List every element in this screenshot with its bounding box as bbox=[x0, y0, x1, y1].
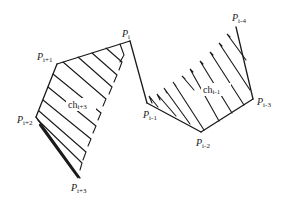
hatch-line bbox=[182, 76, 194, 90]
vertex-label-p-i-plus-2: Pi+2 bbox=[16, 114, 33, 127]
hatch-line bbox=[38, 120, 82, 170]
vertex-labels: Pi Pi+1 Pi+2 Pi+3 Pi-1 Pi-2 Pi-3 Pi-4 bbox=[16, 12, 271, 195]
vertex-label-p-i-minus-4: Pi-4 bbox=[231, 12, 246, 25]
edge-pim3-pim4 bbox=[236, 27, 253, 99]
vertex-label-p-i-plus-1: Pi+1 bbox=[36, 51, 53, 64]
vertex-label-p-i-plus-3: Pi+3 bbox=[70, 182, 87, 195]
edge-pi1-pi bbox=[57, 41, 130, 64]
edge-pi3-shadow bbox=[40, 125, 78, 177]
hatch-line bbox=[227, 34, 246, 60]
hatch-line bbox=[92, 53, 117, 82]
hatch-line bbox=[157, 94, 176, 116]
vertex-label-p-i-minus-3: Pi-3 bbox=[256, 96, 271, 109]
edge-pi-pim1 bbox=[130, 41, 147, 103]
hatch-line bbox=[210, 52, 244, 105]
polygon-chain-diagram: Pi Pi+1 Pi+2 Pi+3 Pi-1 Pi-2 Pi-3 Pi-4 ch… bbox=[0, 0, 284, 206]
vertex-label-p-i: Pi bbox=[121, 28, 130, 41]
vertex-label-p-i-minus-2: Pi-2 bbox=[195, 137, 210, 150]
region-labels: chi+3 chi-1 bbox=[66, 83, 231, 111]
vertex-label-p-i-minus-1: Pi-1 bbox=[142, 109, 157, 122]
hatch-line bbox=[78, 57, 112, 94]
hatch-line bbox=[120, 44, 124, 62]
hatch-region-ch-i1 bbox=[149, 34, 250, 130]
